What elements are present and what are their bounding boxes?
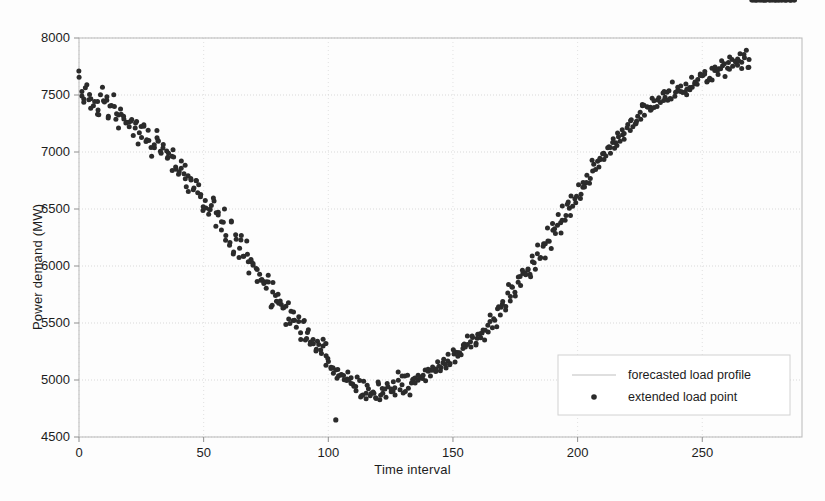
data-point	[335, 367, 340, 372]
data-point	[106, 115, 111, 120]
data-point	[146, 138, 151, 143]
data-point	[222, 206, 227, 211]
data-point	[695, 82, 700, 87]
y-axis-title: Power demand (MW)	[30, 204, 45, 330]
data-point	[79, 89, 84, 94]
data-point	[526, 267, 531, 272]
data-point	[523, 272, 528, 277]
data-point	[582, 184, 587, 189]
data-point	[579, 192, 584, 197]
y-tick-label: 7000	[41, 144, 70, 159]
y-tick-label: 8000	[41, 30, 70, 45]
data-point	[111, 92, 116, 97]
data-point	[186, 189, 191, 194]
data-point	[313, 349, 318, 354]
data-point	[438, 368, 443, 373]
data-point	[588, 176, 593, 181]
legend-label: forecasted load profile	[628, 368, 751, 382]
data-point	[76, 69, 81, 74]
data-point	[345, 369, 350, 374]
data-point	[87, 92, 92, 97]
data-point	[266, 280, 271, 285]
data-point	[146, 128, 151, 133]
data-point	[319, 351, 324, 356]
data-point	[245, 252, 250, 257]
data-point	[269, 305, 274, 310]
data-point	[216, 212, 221, 217]
data-point	[494, 324, 499, 329]
data-point	[149, 154, 154, 159]
data-point	[608, 151, 613, 156]
data-point	[133, 120, 138, 125]
data-point	[302, 318, 307, 323]
data-point	[255, 267, 260, 272]
data-point	[468, 339, 473, 344]
data-point	[152, 142, 157, 147]
data-point	[550, 221, 555, 226]
data-point	[486, 329, 491, 334]
data-point	[383, 395, 388, 400]
data-point	[189, 177, 194, 182]
chart-legend: forecasted load profileextended load poi…	[558, 355, 790, 415]
data-point	[257, 272, 262, 277]
data-point	[286, 316, 291, 321]
y-tick-label: 6000	[41, 258, 70, 273]
data-point	[739, 60, 744, 65]
data-point	[133, 125, 138, 130]
data-point	[739, 66, 744, 71]
data-point	[537, 256, 542, 261]
data-point	[183, 163, 188, 168]
data-point	[294, 325, 299, 330]
data-point	[141, 124, 146, 129]
data-point	[683, 82, 688, 87]
data-point	[638, 110, 643, 115]
data-point	[563, 213, 568, 218]
data-point	[208, 207, 213, 212]
y-tick-label: 6500	[41, 201, 70, 216]
data-point	[508, 294, 513, 299]
data-point	[678, 83, 683, 88]
data-point	[392, 385, 397, 390]
data-point	[98, 92, 103, 97]
data-point	[710, 77, 715, 82]
data-point	[535, 243, 540, 248]
data-point	[366, 386, 371, 391]
data-point	[112, 104, 117, 109]
data-point	[547, 239, 552, 244]
data-point	[194, 178, 199, 183]
data-point	[291, 310, 296, 315]
data-point	[219, 227, 224, 232]
y-tick-label: 5500	[41, 315, 70, 330]
scatter-plot-svg: 4500500055006000650070007500800005010015…	[0, 0, 825, 501]
data-point	[435, 359, 440, 364]
data-point	[100, 85, 105, 90]
x-tick-label: 250	[691, 445, 713, 460]
data-point	[396, 378, 401, 383]
data-point	[576, 182, 581, 187]
data-point	[510, 285, 515, 290]
data-point	[746, 65, 751, 70]
data-point	[211, 196, 216, 201]
chart-figure: 4500500055006000650070007500800005010015…	[0, 0, 825, 501]
data-point	[747, 57, 752, 62]
data-point	[508, 298, 513, 303]
data-point	[473, 342, 478, 347]
data-point	[233, 232, 238, 237]
data-point	[500, 299, 505, 304]
data-point	[296, 314, 301, 319]
data-point	[161, 142, 166, 147]
data-point	[179, 159, 184, 164]
data-point	[229, 219, 234, 224]
data-point	[304, 336, 309, 341]
data-point	[563, 218, 568, 223]
data-point	[227, 240, 232, 245]
data-point	[629, 117, 634, 122]
data-point	[353, 384, 358, 389]
data-point	[608, 145, 613, 150]
data-point	[171, 147, 176, 152]
data-point	[237, 246, 242, 251]
data-point	[638, 117, 643, 122]
data-point	[298, 330, 303, 335]
data-point	[498, 313, 503, 318]
data-point	[457, 350, 462, 355]
